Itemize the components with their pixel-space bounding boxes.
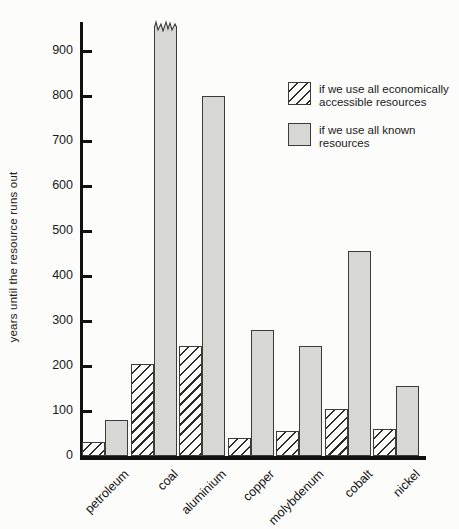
x-category-label-aluminium: aluminium bbox=[179, 467, 229, 517]
bar-chart-figure: years until the resource runs out if we … bbox=[0, 0, 459, 529]
legend: if we use all economically accessible re… bbox=[288, 82, 458, 150]
y-tick-label: 400 bbox=[28, 268, 73, 282]
y-tick-label: 700 bbox=[28, 133, 73, 147]
bar-coal-known bbox=[154, 20, 177, 456]
y-axis-title: years until the resource runs out bbox=[7, 107, 19, 407]
y-tick-label: 100 bbox=[28, 403, 73, 417]
bar-cobalt-economic bbox=[325, 409, 348, 456]
legend-swatch-hatched-icon bbox=[288, 82, 311, 105]
bar-aluminium-economic bbox=[179, 346, 202, 456]
legend-label-economically-accessible: if we use all economically accessible re… bbox=[319, 83, 458, 109]
y-tick bbox=[83, 365, 92, 368]
bar-petroleum-known bbox=[105, 420, 128, 456]
bar-nickel-known bbox=[396, 386, 419, 456]
bar-copper-economic bbox=[228, 438, 251, 456]
y-tick bbox=[83, 140, 92, 143]
legend-item-economically-accessible: if we use all economically accessible re… bbox=[288, 82, 458, 109]
bar-petroleum-economic bbox=[82, 442, 105, 456]
y-tick-label: 200 bbox=[28, 358, 73, 372]
bar-aluminium-known bbox=[202, 96, 225, 456]
y-axis-line bbox=[80, 22, 83, 459]
bar-molybdenum-economic bbox=[276, 431, 299, 456]
y-tick-label: 900 bbox=[28, 43, 73, 57]
bar-copper-known bbox=[251, 330, 274, 456]
bar-molybdenum-known bbox=[299, 346, 322, 456]
x-axis-line bbox=[80, 456, 426, 460]
x-category-label-nickel: nickel bbox=[391, 467, 424, 500]
y-tick bbox=[83, 50, 92, 53]
x-category-label-petroleum: petroleum bbox=[83, 467, 132, 516]
y-tick-label: 500 bbox=[28, 223, 73, 237]
legend-label-known-resources: if we use all known resources bbox=[319, 124, 458, 150]
bar-nickel-economic bbox=[373, 429, 396, 456]
bar-coal-economic bbox=[131, 364, 154, 456]
y-tick bbox=[83, 95, 92, 98]
y-tick-label: 600 bbox=[28, 178, 73, 192]
y-tick bbox=[83, 230, 92, 233]
y-tick-label: 0 bbox=[28, 448, 73, 462]
legend-swatch-gray-icon bbox=[288, 123, 311, 146]
x-category-label-copper: copper bbox=[241, 467, 278, 504]
y-tick-label: 800 bbox=[28, 88, 73, 102]
y-tick bbox=[83, 410, 92, 413]
bar-cobalt-known bbox=[348, 251, 371, 456]
x-category-label-cobalt: cobalt bbox=[341, 467, 374, 500]
y-tick-label: 300 bbox=[28, 313, 73, 327]
y-tick bbox=[83, 185, 92, 188]
y-tick bbox=[83, 275, 92, 278]
y-tick bbox=[83, 320, 92, 323]
x-category-label-coal: coal bbox=[154, 467, 180, 493]
legend-item-known-resources: if we use all known resources bbox=[288, 123, 458, 150]
